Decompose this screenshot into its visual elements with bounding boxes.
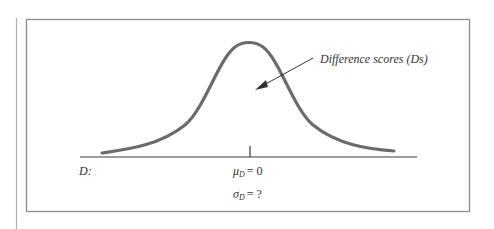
sd-label: σD= ? [233, 187, 262, 202]
figure-frame [27, 20, 470, 212]
mean-label: μD= 0 [232, 164, 263, 179]
mean-value: = 0 [247, 164, 263, 178]
mean-symbol: μ [232, 164, 239, 178]
arrowhead-icon [255, 80, 268, 90]
sd-subscript: D [238, 193, 245, 202]
difference-scores-diagram: Difference scores (Ds) D: μD= 0 σD= ? [0, 0, 494, 229]
axis-label: D: [78, 164, 92, 178]
sd-value: = ? [247, 187, 262, 201]
annotation-label: Difference scores (Ds) [319, 52, 428, 66]
annotation-arrow-line [262, 58, 313, 86]
mean-subscript: D [238, 170, 245, 179]
